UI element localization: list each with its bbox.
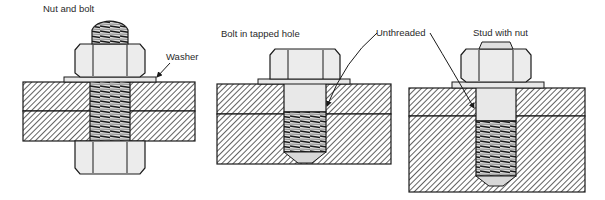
panel-stud-with-nut (409, 42, 585, 192)
panel-bolt-in-tapped-hole (217, 49, 391, 164)
stud-end (479, 42, 513, 49)
bolt-head (270, 49, 340, 79)
threaded-portion (476, 121, 516, 176)
bolt-head (75, 141, 145, 174)
bolt-tip (92, 21, 128, 44)
panel-nut-and-bolt (23, 21, 195, 174)
fastener-diagram (0, 0, 605, 200)
bolt-shank (90, 78, 130, 141)
nut (461, 49, 531, 82)
washer (64, 77, 156, 82)
threaded-portion (284, 112, 326, 152)
nut (75, 44, 145, 77)
unthreaded-shank (476, 85, 516, 121)
washer-leader (157, 63, 170, 77)
washer (452, 82, 544, 88)
unthreaded-shank (284, 82, 326, 112)
washer (258, 79, 350, 84)
